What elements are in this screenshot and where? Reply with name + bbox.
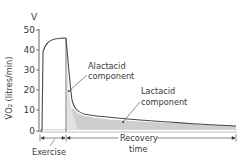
alactacid-leader — [69, 75, 87, 91]
y-tick-label: 20 — [24, 85, 36, 95]
y-tick-label: 50 — [24, 25, 36, 35]
y-tick-label: 0 — [29, 126, 35, 136]
recovery-shaded-area — [67, 109, 236, 130]
oxygen-uptake-chart: V V̇O₂ (litres/min) 50 40 30 20 10 0 Ala… — [0, 0, 246, 165]
exercise-span-arrow — [40, 135, 66, 147]
unit-marker: V — [31, 12, 38, 22]
exercise-label: Exercise — [32, 147, 66, 157]
y-tick-label: 10 — [24, 105, 36, 115]
y-ticks: 50 40 30 20 10 0 — [24, 25, 36, 136]
alactacid-leader-dot — [68, 90, 70, 92]
recovery-label-line2: time — [129, 144, 148, 154]
y-tick-label: 30 — [24, 65, 36, 75]
recovery-label-line1: Recovery — [120, 133, 158, 143]
lactacid-label-line2: component — [141, 97, 188, 107]
alactacid-label-line2: component — [88, 71, 135, 81]
lactacid-label-line1: Lactacid — [141, 86, 175, 96]
y-axis-label: V̇O₂ (litres/min) — [4, 57, 14, 120]
y-tick-label: 40 — [24, 45, 36, 55]
lactacid-leader-dot — [122, 121, 124, 123]
alactacid-label-line1: Alactacid — [88, 61, 126, 71]
